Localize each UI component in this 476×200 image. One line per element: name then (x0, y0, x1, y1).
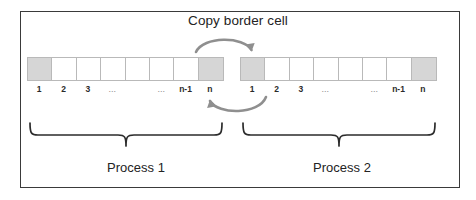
cell-process-2-8 (411, 57, 437, 81)
process-1-caption: Process 1 (46, 160, 226, 175)
cell-label-p1-2: 2 (51, 84, 75, 95)
diagram-title: Copy border cell (0, 13, 476, 28)
cell-label-p2-8: n (411, 84, 435, 95)
cell-process-2-2 (264, 57, 290, 81)
cell-process-2-5 (338, 57, 364, 81)
cell-process-2-1 (240, 57, 266, 81)
process-1-row (27, 57, 222, 81)
process-2-cell-labels: 1 2 3 ... ... n-1 n (240, 84, 435, 95)
cell-label-p2-5 (338, 84, 362, 95)
cell-label-p1-8: n (198, 84, 222, 95)
process-2-caption: Process 2 (252, 160, 432, 175)
cell-process-2-3 (289, 57, 315, 81)
cell-process-1-6 (149, 57, 175, 81)
cell-process-1-8 (198, 57, 224, 81)
cell-process-1-1 (27, 57, 53, 81)
cell-process-1-3 (76, 57, 102, 81)
process-2-row (240, 57, 435, 81)
cell-process-2-7 (386, 57, 412, 81)
cell-label-p2-6: ... (362, 84, 386, 95)
cell-label-p1-1: 1 (27, 84, 51, 95)
diagram-canvas: Copy border cell 1 2 3 ... ... n-1 n 1 2… (0, 0, 476, 200)
cell-process-1-7 (173, 57, 199, 81)
cell-label-p1-7: n-1 (173, 84, 197, 95)
cell-process-1-2 (51, 57, 77, 81)
cell-label-p2-3: 3 (289, 84, 313, 95)
cell-label-p1-5 (125, 84, 149, 95)
cell-process-1-5 (125, 57, 151, 81)
cell-label-p2-1: 1 (240, 84, 264, 95)
cell-process-1-4 (100, 57, 126, 81)
cell-label-p1-3: 3 (76, 84, 100, 95)
cell-process-2-6 (362, 57, 388, 81)
cell-label-p2-2: 2 (264, 84, 288, 95)
cell-label-p2-7: n-1 (386, 84, 410, 95)
cell-label-p1-4: ... (100, 84, 124, 95)
cell-label-p1-6: ... (149, 84, 173, 95)
cell-label-p2-4: ... (313, 84, 337, 95)
process-1-cell-labels: 1 2 3 ... ... n-1 n (27, 84, 222, 95)
cell-process-2-4 (313, 57, 339, 81)
